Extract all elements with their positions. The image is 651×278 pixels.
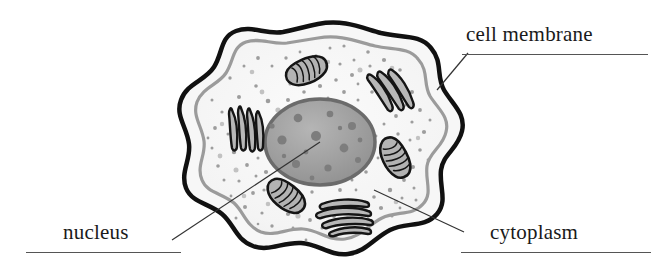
leader-line-cell-membrane [437,53,468,90]
endoplasmic-reticulum-left [229,106,263,151]
label-rule-nucleus [26,252,181,253]
label-cell-membrane: cell membrane [466,24,593,45]
label-rule-cytoplasm [461,252,651,253]
label-rule-cell-membrane [462,54,648,55]
label-cytoplasm: cytoplasm [490,222,578,243]
cell-diagram-figure: cell membrane nucleus cytoplasm [0,0,651,278]
label-nucleus: nucleus [63,222,129,243]
